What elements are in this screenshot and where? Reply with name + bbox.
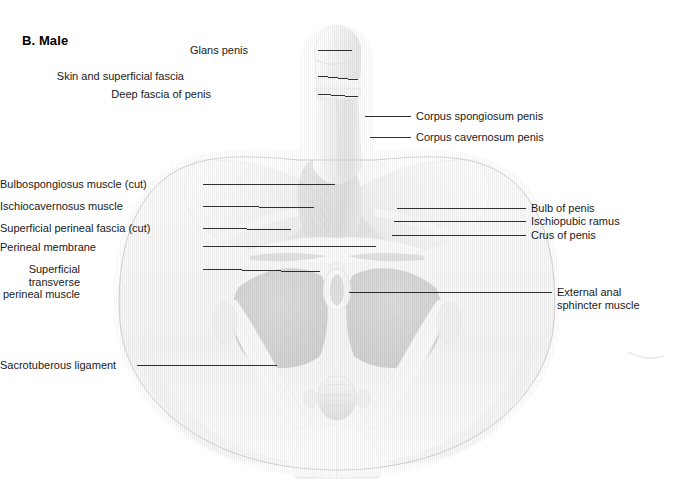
label-ischiopubic-ramus: Ischiopubic ramus: [531, 215, 620, 228]
label-glans-penis: Glans penis: [0, 44, 248, 57]
label-superficial-perineal-fascia-cut: Superficial perineal fascia (cut): [0, 222, 39, 235]
label-external-anal-sphincter-muscle: External analsphincter muscle: [557, 286, 640, 311]
label-crus-of-penis: Crus of penis: [531, 229, 596, 242]
label-perineal-membrane: Perineal membrane: [0, 241, 90, 254]
label-deep-fascia-of-penis: Deep fascia of penis: [0, 88, 211, 101]
label-skin-and-superficial-fascia: Skin and superficial fascia: [0, 70, 184, 83]
label-corpus-spongiosum-penis: Corpus spongiosum penis: [416, 110, 543, 123]
label-bulbospongiosus-muscle-cut: Bulbospongiosus muscle (cut): [0, 178, 46, 191]
label-bulb-of-penis: Bulb of penis: [531, 202, 595, 215]
label-ischiocavernosus-muscle: Ischiocavernosus muscle: [0, 200, 69, 213]
label-superficial-transverse-perineal-muscle: Superficial transverseperineal muscle: [0, 263, 80, 301]
figure-root: B. Male Glans penisSkin and superficial …: [0, 0, 675, 493]
label-corpus-cavernosum-penis: Corpus cavernosum penis: [416, 131, 544, 144]
margin-artifact: [628, 352, 664, 358]
label-sacrotuberous-ligament: Sacrotuberous ligament: [0, 359, 22, 372]
